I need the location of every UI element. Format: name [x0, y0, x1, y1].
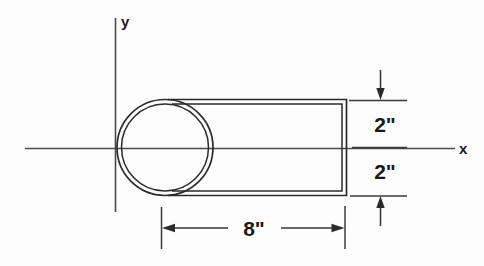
lower-height-label: 2" — [374, 160, 396, 183]
outer-circle — [117, 100, 213, 196]
inner-circle — [122, 104, 209, 191]
y-axis-label: y — [121, 13, 130, 30]
left-arrow-icon — [162, 224, 175, 232]
upper-height-label: 2" — [374, 113, 396, 136]
tube-cross-section-figure: 2" 2" 8" y x — [0, 0, 484, 266]
length-label: 8" — [243, 217, 265, 240]
down-arrow-icon — [376, 88, 384, 100]
inner-rectangle — [172, 104, 342, 191]
x-axis-label: x — [459, 140, 468, 157]
up-arrow-icon — [376, 196, 384, 208]
outer-rectangle — [168, 100, 347, 196]
right-arrow-icon — [332, 224, 345, 232]
diagram-canvas: 2" 2" 8" y x — [0, 0, 484, 266]
